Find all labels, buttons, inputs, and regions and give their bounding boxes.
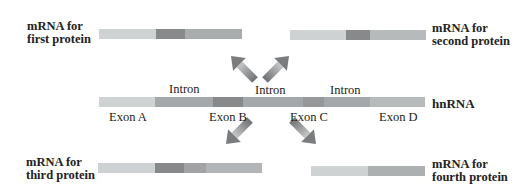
exon-a-segment [311,166,368,176]
intron-segment [155,97,213,107]
hnrna-label: hnRNA [432,97,475,110]
third-protein-label: mRNA for third protein [26,156,95,182]
exon-d-segment [206,163,262,173]
arrow-up-right-icon [259,50,296,87]
intron-segment [243,97,303,107]
exon-c-label: Exon C [290,111,328,124]
exon-a-segment [99,97,155,107]
exon-d-segment [370,30,426,40]
exon-d-label: Exon D [379,111,418,124]
exon-c-segment [303,97,324,107]
label-line: first protein [27,33,91,46]
label-line: second protein [432,35,510,48]
intron-segment [324,97,370,107]
exon-a-segment [290,30,346,40]
exon-b-segment [156,29,185,39]
mrna-first-protein-bar [99,29,242,39]
intron-label-1: Intron [169,83,200,96]
hnrna-bar [99,97,425,107]
mrna-fourth-protein-bar [311,166,425,176]
mrna-second-protein-bar [290,30,426,40]
second-protein-label: mRNA for second protein [432,22,510,48]
label-line: fourth protein [432,171,508,184]
exon-d-segment [370,97,425,107]
exon-c-segment [184,163,206,173]
exon-d-segment [368,166,425,176]
fourth-protein-label: mRNA for fourth protein [432,158,508,184]
exon-b-segment [213,97,243,107]
exon-a-segment [98,163,155,173]
exon-b-segment [346,30,370,40]
exon-b-segment [155,163,184,173]
exon-c-segment [185,29,242,39]
label-line: third protein [26,169,95,182]
arrow-up-left-icon [225,50,262,87]
exon-a-segment [99,29,156,39]
exon-b-label: Exon B [209,111,247,124]
exon-a-label: Exon A [109,111,147,124]
mrna-third-protein-bar [98,163,262,173]
intron-label-3: Intron [330,84,361,97]
intron-label-2: Intron [255,84,286,97]
first-protein-label: mRNA for first protein [27,20,91,46]
